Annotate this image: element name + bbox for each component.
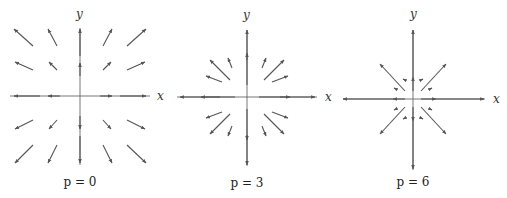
vector-arrow [127,62,145,70]
vector-arrow [210,114,230,134]
y-axis-label: y [75,7,83,21]
vector-arrow [48,29,57,46]
vector-arrow [127,29,146,46]
axes [343,30,485,170]
vector-arrow [49,62,57,70]
vector-arrow [206,112,222,118]
vector-arrow [421,118,423,119]
vector-arrow [15,62,33,70]
vector-arrow [48,145,57,163]
vector-arrow [380,107,405,134]
vector-arrow [127,145,146,163]
vector-arrow [262,58,266,68]
panel-p3: x y p = 3 [177,8,332,190]
vector-arrow [430,109,432,110]
panel-caption: p = 0 [64,175,97,189]
vector-arrow [210,60,230,80]
vector-arrow [103,62,111,70]
vector-arrows [343,30,484,169]
vector-arrow [127,120,145,129]
vector-arrow [394,109,396,110]
x-axis-label: x [157,89,164,103]
vector-arrow [421,107,446,134]
vector-arrow [103,145,112,163]
vector-arrow [49,120,57,129]
vector-arrow [15,145,33,163]
vector-arrow [403,118,405,119]
vector-arrow [206,76,222,82]
vector-arrow [15,120,33,129]
vector-arrow [272,112,288,118]
vector-arrow [262,126,266,136]
vector-arrow [14,29,33,46]
vector-arrow [228,58,232,68]
vector-arrow [272,76,288,82]
y-axis-label: y [409,7,417,21]
vector-arrow [421,79,423,80]
x-axis-label: x [325,90,332,104]
vector-arrow [264,60,284,80]
vector-arrow [264,114,284,134]
vector-arrow [421,64,446,91]
vector-field-figure: x y p = 0 x y p = 3 x y p = 6 [0,0,507,198]
y-axis-label: y [242,8,250,22]
panel-caption: p = 3 [231,176,264,190]
vector-arrows [180,30,315,165]
x-axis-label: x [493,92,500,106]
vector-arrow [380,64,405,91]
vector-arrow [403,79,405,80]
vector-arrow [103,120,111,129]
panel-p0: x y p = 0 [10,7,164,189]
panel-caption: p = 6 [397,175,430,189]
vector-arrow [228,126,232,136]
panel-p6: x y p = 6 [343,7,500,189]
vector-arrow [430,88,432,89]
vector-arrow [103,29,112,46]
vector-arrow [394,88,396,89]
